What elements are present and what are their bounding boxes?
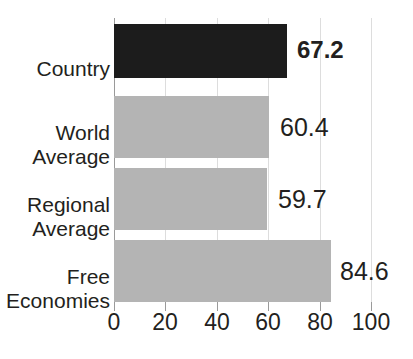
- value-label-regional-average: 59.7: [278, 187, 327, 212]
- category-label-regional-average: Regional Average: [0, 186, 110, 248]
- category-label-free-economies: Free Economies: [0, 258, 110, 320]
- value-label-free-economies: 84.6: [340, 259, 389, 284]
- bar-regional-average: [114, 168, 267, 230]
- category-axis: Country World Average Regional Average F…: [0, 18, 110, 302]
- x-tick-label-40: 40: [204, 311, 230, 334]
- category-label-text: Regional Average: [27, 193, 110, 241]
- value-label-world-average: 60.4: [280, 115, 329, 140]
- category-label-world-average: World Average: [0, 114, 110, 176]
- x-tick-label-100: 100: [352, 311, 390, 334]
- category-label-country: Country: [0, 42, 110, 96]
- bar-country: [114, 24, 287, 78]
- x-tick-label-0: 0: [108, 311, 121, 334]
- x-tick-label-60: 60: [255, 311, 281, 334]
- category-label-text: World Average: [32, 121, 110, 169]
- category-label-text: Free Economies: [6, 265, 110, 313]
- bar-chart: Country World Average Regional Average F…: [0, 0, 413, 359]
- x-tick-label-80: 80: [307, 311, 333, 334]
- bar-world-average: [114, 96, 269, 158]
- value-label-country: 67.2: [297, 38, 344, 62]
- bar-free-economies: [114, 240, 331, 302]
- x-tick-label-20: 20: [152, 311, 178, 334]
- category-label-text: Country: [36, 57, 110, 81]
